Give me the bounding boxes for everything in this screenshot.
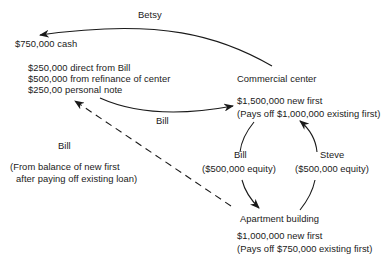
bill-dashed-note-line1: (From balance of new first [10, 161, 120, 172]
apartment-building-title: Apartment building [240, 213, 319, 224]
bill-equity-bottom-arc [242, 180, 259, 208]
steve-equity-top-arc [300, 121, 317, 152]
betsy-label: Betsy [138, 9, 162, 20]
cash-source-bill: $250,000 direct from Bill [28, 62, 130, 73]
cash-source-refinance: $500,000 from refinance of center [28, 73, 170, 84]
bill-dashed-label: Bill [58, 140, 71, 151]
commercial-center-title: Commercial center [237, 73, 317, 84]
steve-equity-amount: ($500,000 equity) [295, 163, 369, 174]
bill-dashed-arrow [75, 101, 231, 206]
bill-equity-amount: ($500,000 equity) [202, 163, 276, 174]
apartment-building-payoff: (Pays off $750,000 existing first) [237, 243, 372, 254]
cash-source-personal-note: $250,00 personal note [28, 84, 122, 95]
bill-top-label: Bill [156, 115, 169, 126]
bill-equity-label: Bill [234, 149, 247, 160]
bill-dashed-note-line2: after paying off existing loan) [16, 173, 137, 184]
apartment-building-new-first: $1,000,000 new first [237, 230, 322, 241]
steve-equity-bottom-arc [300, 180, 315, 210]
bill-equity-top-arc [240, 122, 254, 152]
steve-equity-label: Steve [320, 149, 344, 160]
bill-top-arrow [100, 98, 233, 112]
commercial-center-new-first: $1,500,000 new first [237, 95, 322, 106]
cash-title: $750,000 cash [15, 38, 77, 49]
commercial-center-payoff: (Pays off $1,000,000 existing first) [237, 108, 380, 119]
